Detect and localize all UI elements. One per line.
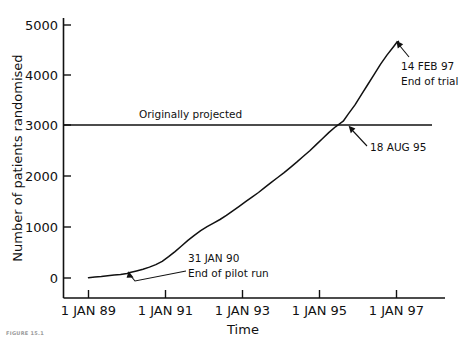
y-tick-label-2000: 2000 bbox=[25, 169, 58, 184]
x-tick-label-1991: 1 JAN 91 bbox=[138, 303, 193, 318]
annotation-end-of-trial: 14 FEB 97 End of trial bbox=[396, 41, 458, 87]
axes-group bbox=[64, 18, 446, 298]
y-axis-title: Number of patients randomised bbox=[10, 54, 25, 261]
end-of-pilot-caption-label: End of pilot run bbox=[188, 267, 269, 279]
crossing-date-label: 18 AUG 95 bbox=[370, 141, 426, 153]
x-tick-marks bbox=[89, 290, 397, 298]
recruitment-curve bbox=[89, 41, 399, 277]
end-of-trial-arrow-head bbox=[396, 41, 403, 49]
y-tick-label-3000: 3000 bbox=[25, 118, 58, 133]
end-of-pilot-date-label: 31 JAN 90 bbox=[188, 252, 239, 264]
x-tick-label-1995: 1 JAN 95 bbox=[292, 303, 347, 318]
x-tick-labels: 1 JAN 89 1 JAN 91 1 JAN 93 1 JAN 95 1 JA… bbox=[61, 303, 424, 318]
y-tick-marks bbox=[64, 25, 72, 278]
annotation-crossing-projection: 18 AUG 95 bbox=[349, 126, 427, 153]
y-tick-labels: 5000 4000 3000 2000 1000 0 bbox=[25, 18, 58, 286]
end-of-trial-date-label: 14 FEB 97 bbox=[401, 60, 454, 72]
originally-projected-label: Originally projected bbox=[139, 108, 242, 120]
figure-container: 5000 4000 3000 2000 1000 0 1 JAN 89 1 JA… bbox=[0, 0, 461, 343]
x-tick-label-1997: 1 JAN 97 bbox=[369, 303, 424, 318]
y-tick-label-0: 0 bbox=[50, 271, 58, 286]
figure-caption: FIGURE 15.1 bbox=[6, 330, 44, 336]
x-axis-title: Time bbox=[226, 322, 259, 337]
recruitment-line-chart: 5000 4000 3000 2000 1000 0 1 JAN 89 1 JA… bbox=[0, 0, 461, 343]
annotation-end-of-pilot-run: 31 JAN 90 End of pilot run bbox=[127, 252, 269, 281]
x-tick-label-1989: 1 JAN 89 bbox=[61, 303, 116, 318]
x-tick-label-1993: 1 JAN 93 bbox=[215, 303, 270, 318]
crossing-leader-line bbox=[353, 131, 367, 146]
y-tick-label-5000: 5000 bbox=[25, 18, 58, 33]
end-of-trial-caption-label: End of trial bbox=[401, 75, 458, 87]
y-tick-label-4000: 4000 bbox=[25, 68, 58, 83]
end-of-trial-leader-line bbox=[400, 46, 409, 57]
y-tick-label-1000: 1000 bbox=[25, 220, 58, 235]
end-of-pilot-leader-line bbox=[130, 271, 186, 281]
